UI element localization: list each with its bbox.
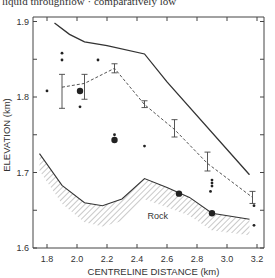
small-data-point [113,133,116,136]
x-tick-label: 2.4 [131,254,144,264]
x-tick-label: 3.0 [221,254,234,264]
rock-hatch-band [40,154,250,236]
x-tick-label: 2.2 [101,254,114,264]
small-data-point [209,190,212,193]
x-tick-label: 3.2 [251,254,264,264]
x-tick-label: 1.8 [41,254,54,264]
y-axis-title: ELEVATION (km) [1,98,12,172]
elevation-chart: 1.82.02.22.42.62.83.03.21.61.71.81.9 Roc… [0,0,275,278]
x-tick-label: 2.0 [71,254,84,264]
large-data-point [77,88,83,94]
x-tick-label: 2.8 [191,254,204,264]
small-data-point [211,179,214,182]
small-data-point [253,224,256,227]
small-data-point [211,185,214,188]
y-tick-label: 1.6 [16,243,29,253]
small-data-point [46,90,49,93]
small-data-point [253,204,256,207]
large-data-point [209,210,215,216]
small-data-point [79,105,82,108]
small-data-point [143,145,146,148]
y-tick-label: 1.7 [16,168,29,178]
x-tick-label: 2.6 [161,254,174,264]
y-tick-label: 1.8 [16,92,29,102]
large-data-point [176,190,182,196]
mean-profile-dashed-line [62,68,253,197]
small-data-point [97,59,100,62]
x-axis-title: CENTRELINE DISTANCE (km) [88,266,220,277]
rock-hatch [40,154,250,236]
rock-label: Rock [148,211,169,221]
y-tick-label: 1.9 [16,17,29,27]
small-data-point [61,52,64,55]
small-data-point [211,182,214,185]
large-data-point [111,137,117,143]
small-data-point [61,59,64,62]
